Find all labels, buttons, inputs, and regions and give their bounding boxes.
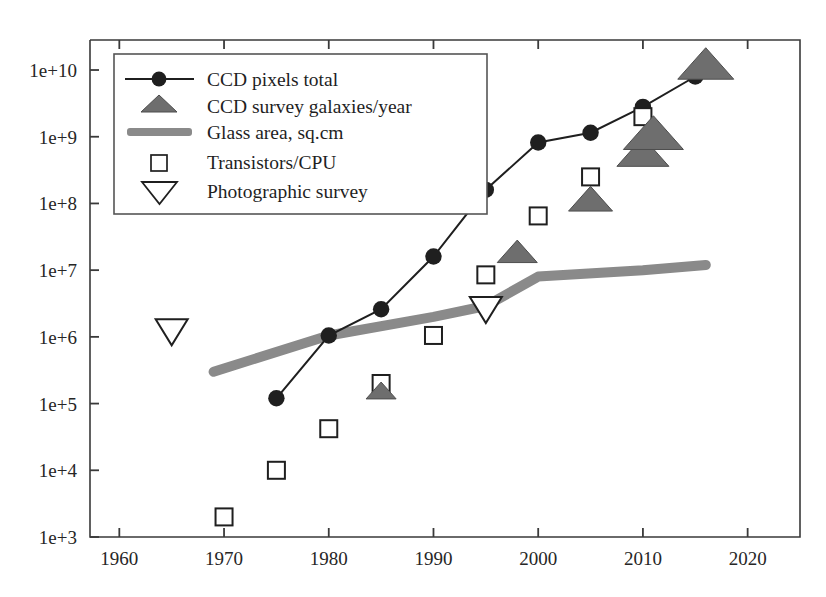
data-point-filled-circle <box>321 327 337 343</box>
data-point-filled-circle <box>530 134 546 150</box>
x-tick-label: 2000 <box>519 548 557 569</box>
x-tick-label: 1970 <box>205 548 243 569</box>
x-tick-label: 2010 <box>624 548 662 569</box>
y-tick-label: 1e+7 <box>39 260 77 281</box>
data-point-open-square <box>477 266 494 283</box>
data-point-open-square <box>216 508 233 525</box>
x-tick-label: 1980 <box>310 548 348 569</box>
chart-figure: 1e+31e+41e+51e+61e+71e+81e+91e+10 196019… <box>0 0 826 597</box>
chart-legend: CCD pixels total CCD survey galaxies/yea… <box>114 54 487 214</box>
legend-label-transistors-per-cpu: Transistors/CPU <box>207 152 336 173</box>
y-tick-label: 1e+8 <box>39 193 77 214</box>
y-tick-label: 1e+9 <box>39 127 77 148</box>
data-point-open-square <box>268 462 285 479</box>
open-square-icon <box>151 155 167 171</box>
y-tick-label: 1e+5 <box>39 394 77 415</box>
x-tick-label: 2020 <box>729 548 767 569</box>
x-tick-label: 1990 <box>414 548 452 569</box>
y-tick-label: 1e+3 <box>39 527 77 548</box>
y-tick-label: 1e+6 <box>39 327 77 348</box>
thick-gray-bar-icon <box>127 128 192 136</box>
legend-label-ccd-survey-galaxies: CCD survey galaxies/year <box>207 96 412 117</box>
y-tick-label: 1e+10 <box>29 60 77 81</box>
legend-label-photographic-survey: Photographic survey <box>207 181 368 202</box>
data-point-open-square <box>530 207 547 224</box>
filled-circle-icon <box>152 72 167 87</box>
x-tick-label: 1960 <box>100 548 138 569</box>
data-point-open-square <box>320 420 337 437</box>
data-point-open-square <box>582 168 599 185</box>
legend-label-glass-area: Glass area, sq.cm <box>207 122 343 143</box>
data-point-filled-circle <box>425 248 441 264</box>
data-point-filled-circle <box>373 301 389 317</box>
data-point-filled-circle <box>268 390 284 406</box>
data-point-open-square <box>425 327 442 344</box>
legend-label-ccd-pixels-total: CCD pixels total <box>207 69 339 90</box>
chart-svg: 1e+31e+41e+51e+61e+71e+81e+91e+10 196019… <box>0 0 826 597</box>
y-tick-label: 1e+4 <box>39 460 78 481</box>
data-point-filled-circle <box>582 124 598 140</box>
